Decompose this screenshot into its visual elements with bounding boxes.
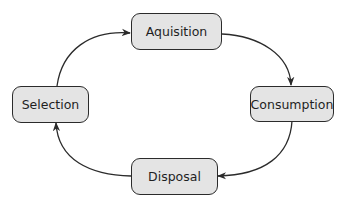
node-consumption-label: Consumption: [251, 97, 334, 112]
arrow-consumption-to-disposal: [218, 121, 292, 176]
node-disposal-label: Disposal: [148, 169, 201, 184]
arrow-selection-to-acquisition: [57, 33, 130, 86]
node-acquisition: Aquisition: [131, 13, 222, 50]
arrow-acquisition-to-consumption: [222, 34, 291, 85]
cycle-diagram: Aquisition Consumption Disposal Selectio…: [0, 0, 345, 202]
node-acquisition-label: Aquisition: [146, 24, 208, 39]
node-disposal: Disposal: [131, 158, 218, 195]
node-consumption: Consumption: [250, 86, 334, 122]
node-selection-label: Selection: [22, 97, 80, 112]
node-selection: Selection: [12, 86, 89, 123]
arrow-disposal-to-selection: [56, 123, 131, 176]
